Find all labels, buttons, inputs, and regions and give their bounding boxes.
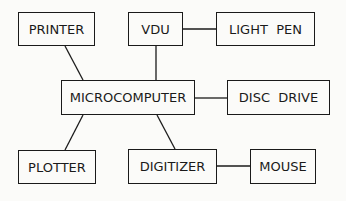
block-diagram: PRINTER VDU LIGHT PEN MICROCOMPUTER DISC… (0, 0, 346, 201)
node-printer: PRINTER (18, 12, 95, 46)
node-microcomputer: MICROCOMPUTER (61, 80, 195, 115)
node-light-pen: LIGHT PEN (216, 12, 315, 46)
edge-microcomputer-digitizer (157, 115, 175, 149)
node-disc-drive: DISC DRIVE (227, 80, 330, 115)
edge-printer-microcomputer (65, 46, 83, 80)
node-digitizer: DIGITIZER (128, 149, 217, 184)
edge-microcomputer-plotter (65, 115, 83, 150)
node-vdu: VDU (128, 12, 183, 46)
node-mouse: MOUSE (250, 149, 316, 184)
node-plotter: PLOTTER (18, 150, 96, 184)
